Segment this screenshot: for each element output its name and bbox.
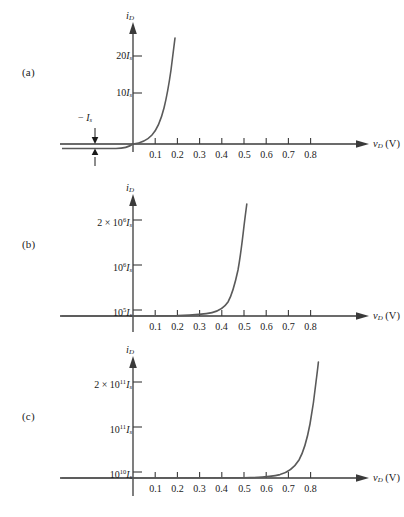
panel-c-ytick-1e11: 1011Is: [110, 422, 132, 437]
x-tick-marks: [155, 138, 310, 144]
is-annotation-arrows: [92, 128, 99, 166]
panel-b-x-axis-title: vD (V): [373, 310, 400, 324]
panel-c-xtick-4: 0.4: [209, 484, 234, 494]
diode-iv-curve: [133, 38, 175, 144]
panel-a-x-axis-title: vD (V): [373, 138, 400, 152]
panel-c-y-axis-title: iD: [126, 344, 134, 358]
panel-b-ytick-2e6: 2 × 106Is: [97, 215, 132, 230]
panel-b-y-axis-title: iD: [126, 182, 134, 196]
y-tick-marks: [133, 382, 142, 472]
panel-a-plot: [0, 0, 404, 172]
x-axis-arrow: [356, 312, 369, 320]
panel-c-x-axis-title: vD (V): [373, 472, 400, 486]
panel-c-ytick-2e11: 2 × 1011Is: [94, 377, 132, 392]
panel-a-ytick-20Is: 20Is: [116, 51, 132, 63]
panel-a-minus-Is-annotation: − Is: [78, 113, 92, 125]
panel-c: (c) 1010Is 1011Is 2 × 1011Is iD vD (V) 0…: [0, 344, 404, 516]
reverse-saturation-curve: [62, 144, 133, 149]
panel-b-xtick-8: 0.8: [298, 322, 323, 332]
y-tick-marks: [133, 220, 142, 310]
panel-b-ytick-1e5: 105Is: [113, 305, 132, 320]
panel-b-ytick-1e6: 106Is: [113, 260, 132, 275]
panel-a-xtick-8: 0.8: [298, 150, 323, 160]
y-tick-marks: [133, 56, 142, 93]
x-axis-arrow: [356, 474, 369, 482]
panel-a-ytick-10Is: 10Is: [116, 88, 132, 100]
panel-b-xtick-4: 0.4: [209, 322, 234, 332]
panel-c-ytick-1e10: 1010Is: [110, 467, 132, 482]
panel-c-xtick-8: 0.8: [298, 484, 323, 494]
panel-b: (b) 105Is 106Is 2 × 106Is iD vD (V) 0.1 …: [0, 172, 404, 344]
panel-a: (a): [0, 0, 404, 172]
panel-a-y-axis-title: iD: [126, 10, 134, 24]
diode-iv-curve: [62, 204, 247, 316]
panel-a-xtick-4: 0.4: [209, 150, 234, 160]
panel-b-plot: [0, 172, 404, 344]
x-axis-arrow: [356, 140, 369, 148]
